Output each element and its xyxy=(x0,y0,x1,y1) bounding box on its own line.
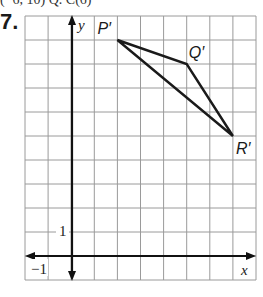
grid-lines xyxy=(25,16,256,280)
x-axis-left-arrow-icon xyxy=(25,252,35,260)
x-axis-right-arrow-icon xyxy=(246,252,256,260)
y-axis-label: y xyxy=(76,17,85,33)
coordinate-graph: 1 −1 x y P′Q′R′ xyxy=(0,0,263,297)
point-label: R′ xyxy=(236,140,252,157)
point-label: P′ xyxy=(97,20,112,37)
x-tick-label-neg1: −1 xyxy=(31,261,47,277)
y-tick-label-1: 1 xyxy=(59,223,67,239)
axis-labels: 1 −1 x y xyxy=(30,17,248,278)
x-axis-label: x xyxy=(240,262,248,278)
point-label: Q′ xyxy=(189,44,205,61)
